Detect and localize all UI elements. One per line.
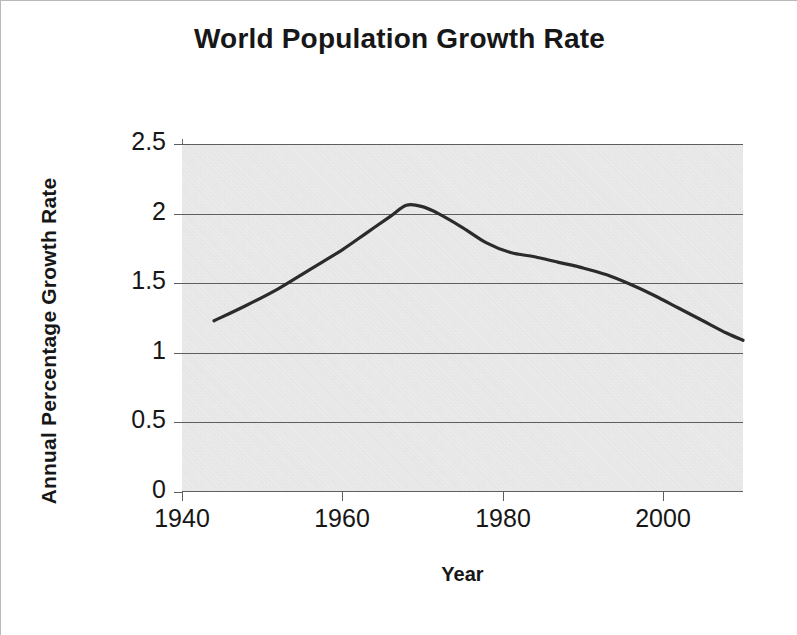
chart-title: World Population Growth Rate bbox=[1, 23, 797, 55]
y-axis-title: Annual Percentage Growth Rate bbox=[37, 131, 61, 551]
x-tick-label: 1980 bbox=[433, 504, 573, 533]
x-tick-label: 2000 bbox=[593, 504, 733, 533]
y-tick-mark bbox=[174, 283, 182, 284]
y-tick-mark bbox=[174, 214, 182, 215]
x-axis-title: Year bbox=[181, 563, 744, 586]
plot-area bbox=[182, 144, 743, 492]
x-tick-label: 1940 bbox=[112, 504, 252, 533]
y-tick-mark bbox=[174, 422, 182, 423]
y-tick-label: 2 bbox=[86, 197, 166, 226]
x-tick-mark bbox=[663, 492, 664, 501]
x-tick-mark bbox=[182, 492, 183, 501]
y-tick-label: 1 bbox=[86, 336, 166, 365]
y-tick-label: 1.5 bbox=[86, 266, 166, 295]
growth-rate-curve bbox=[214, 205, 743, 341]
y-tick-label: 2.5 bbox=[86, 127, 166, 156]
y-tick-mark bbox=[174, 492, 182, 493]
y-tick-label: 0.5 bbox=[86, 405, 166, 434]
chart-figure: World Population Growth Rate Annual Perc… bbox=[0, 0, 797, 635]
x-tick-mark bbox=[342, 492, 343, 501]
x-tick-mark bbox=[503, 492, 504, 501]
x-tick-label: 1960 bbox=[272, 504, 412, 533]
y-tick-label: 0 bbox=[86, 475, 166, 504]
y-tick-mark bbox=[174, 353, 182, 354]
data-series-line bbox=[182, 144, 743, 492]
y-tick-mark bbox=[174, 144, 182, 145]
